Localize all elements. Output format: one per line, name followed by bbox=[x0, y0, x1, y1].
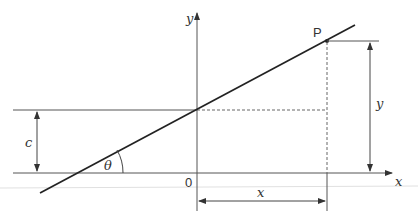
faint-guide-line bbox=[0, 186, 418, 188]
theta-arc bbox=[117, 150, 123, 173]
x-dimension-label: x bbox=[257, 185, 265, 200]
x-axis-label: x bbox=[395, 174, 403, 189]
c-label: c bbox=[25, 135, 33, 150]
theta-label: θ bbox=[104, 158, 112, 173]
y-dimension-label: y bbox=[375, 96, 384, 111]
point-p-label: P bbox=[313, 25, 322, 40]
origin-label: 0 bbox=[185, 175, 192, 190]
line-gradient-diagram: x y 0 c θ P y x bbox=[0, 0, 418, 224]
y-axis-label: y bbox=[185, 11, 194, 26]
